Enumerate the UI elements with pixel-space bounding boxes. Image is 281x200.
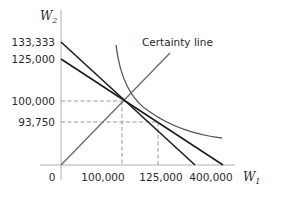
y-tick-100000: 100,000: [12, 95, 55, 107]
certainty-line-label: Certainty line: [142, 36, 213, 48]
y-axis-title: W2: [40, 9, 57, 25]
expected-utility-diagram: W2 W1 133,333 125,000 100,000 93,750 0 1…: [0, 0, 281, 200]
origin-label: 0: [49, 171, 56, 183]
x-tick-125000: 125,000: [139, 171, 182, 183]
reference-lines: [61, 101, 158, 165]
y-tick-93750: 93,750: [18, 116, 55, 128]
y-tick-125000: 125,000: [12, 53, 55, 65]
x-tick-100000: 100,000: [81, 171, 124, 183]
budget-line-flat: [61, 59, 223, 165]
y-tick-133333: 133,333: [12, 36, 55, 48]
x-axis-title: W1: [243, 170, 260, 186]
x-tick-400000: 400,000: [189, 171, 232, 183]
